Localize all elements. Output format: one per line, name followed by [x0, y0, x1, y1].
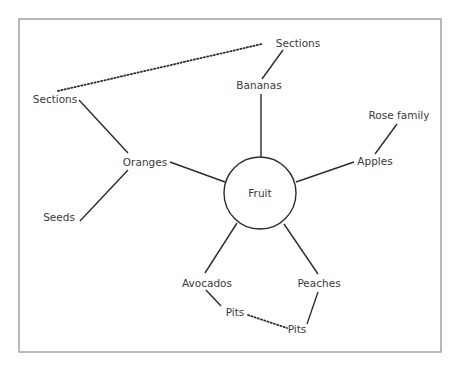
node-bananas: Bananas — [236, 79, 281, 91]
node-peaches: Peaches — [297, 277, 340, 289]
edge-bananas-sections — [262, 50, 283, 79]
edge-oranges-sections — [79, 100, 128, 153]
edge-fruit-oranges — [170, 162, 225, 182]
node-pits-peaches: Pits — [288, 323, 307, 335]
edge-fruit-apples — [296, 162, 354, 182]
node-pits-avocados: Pits — [226, 306, 245, 318]
node-sections-oranges: Sections — [33, 93, 77, 105]
node-rose-family: Rose family — [369, 109, 430, 121]
node-oranges: Oranges — [123, 156, 167, 168]
edge-avocados-pits — [206, 290, 221, 306]
center-node-label: Fruit — [248, 187, 271, 199]
node-seeds: Seeds — [43, 211, 75, 223]
node-sections-bananas: Sections — [276, 37, 320, 49]
edge-fruit-avocados — [205, 223, 237, 273]
dotted-link-pits — [248, 315, 287, 328]
dotted-link-sections — [58, 44, 262, 91]
edge-peaches-pits — [307, 292, 318, 324]
concept-map: Fruit Sections Bananas Sections Rose fam… — [0, 0, 457, 366]
edge-apples-rose-family — [375, 124, 397, 154]
edge-oranges-seeds — [80, 170, 128, 221]
node-avocados: Avocados — [182, 277, 232, 289]
edge-fruit-peaches — [284, 224, 318, 274]
node-apples: Apples — [357, 155, 392, 167]
